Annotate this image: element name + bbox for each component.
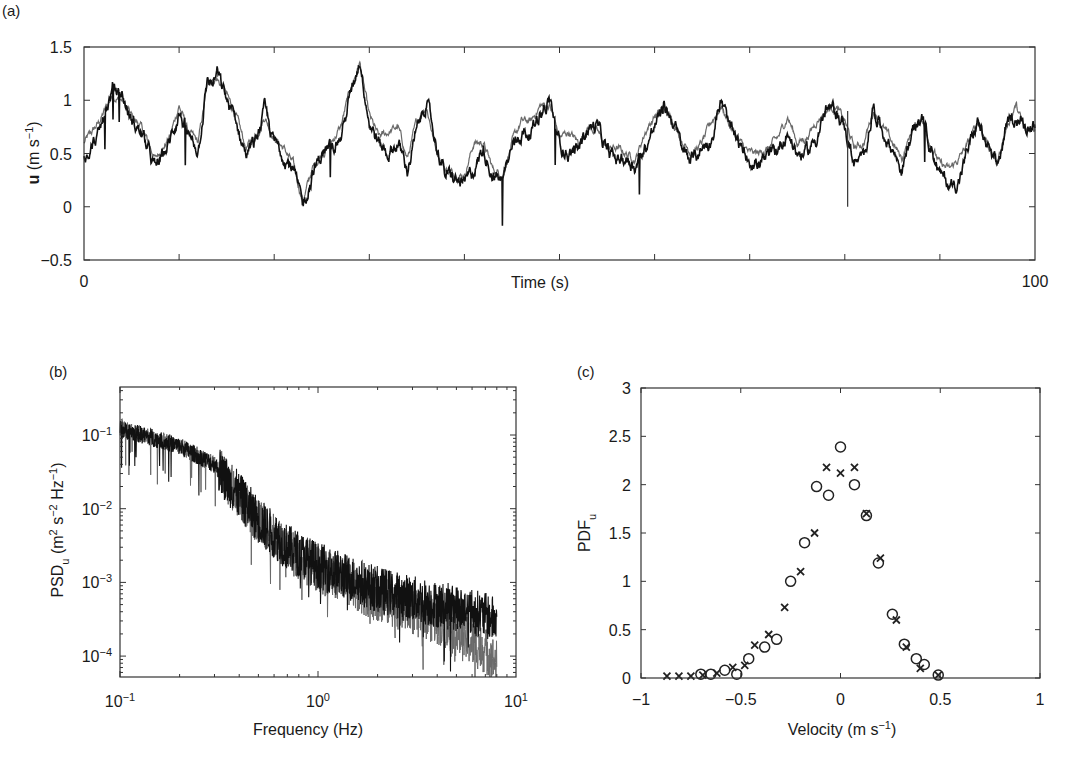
cross-marker [741,662,748,669]
x-tick-label: 0 [836,691,845,708]
circle-marker [824,490,834,500]
panel-label-a: (a) [2,2,20,19]
y-tick-label: 10−3 [82,572,112,591]
y-tick-label: −0.5 [40,252,72,269]
x-tick-label: 0 [80,273,89,290]
y-tick-label: 2.5 [609,428,631,445]
x-tick-label: 101 [504,691,528,710]
panel-b-psd: 10−110010110−410−310−210−1 Frequency (Hz… [47,387,528,738]
y-tick-label: 1 [622,573,631,590]
y-tick-label: 1 [63,92,72,109]
circle-marker [861,511,871,521]
panel-a-xlabel: Time (s) [511,274,569,291]
y-tick-label: 0 [622,670,631,687]
panel-a-ylabel: u (m s−1) [23,121,42,184]
x-tick-label: 10−1 [105,691,135,710]
cross-marker [851,464,858,471]
y-tick-label: 0.5 [50,146,72,163]
circle-marker [786,576,796,586]
panel-a-time-series: 0100−0.500.511.5 Time (s) u (m s−1) [23,39,1048,291]
x-tick-label: 0.5 [929,691,951,708]
panel-label-b: (b) [49,363,67,380]
cross-marker [823,464,830,471]
cross-marker [811,530,818,537]
circle-marker [887,609,897,619]
y-tick-label: 10−2 [82,499,112,518]
panel-a-series [84,62,1035,226]
circle-marker [772,634,782,644]
panel-c-frame [641,388,1040,678]
y-tick-label: 0 [63,199,72,216]
series-modelled-line [84,62,1035,203]
circle-marker [760,642,770,652]
x-tick-label: −1 [632,691,650,708]
y-tick-label: 0.5 [609,622,631,639]
panel-b-series [120,419,497,677]
cross-marker [751,642,758,649]
circle-marker [800,538,810,548]
cross-marker [917,665,924,672]
panel-c-ticks: −1−0.500.5100.511.522.53 [609,380,1045,708]
panel-b-xlabel: Frequency (Hz) [253,721,363,738]
y-tick-label: 1.5 [609,525,631,542]
circle-marker [836,442,846,452]
panel-c-series [663,442,943,680]
panel-a-frame [84,47,1035,260]
cross-marker [729,664,736,671]
x-tick-label: 100 [1022,273,1049,290]
circle-marker [720,665,730,675]
y-tick-label: 1.5 [50,39,72,56]
cross-marker [797,568,804,575]
y-tick-label: 10−4 [82,646,112,665]
y-tick-label: 2 [622,477,631,494]
circle-marker [744,654,754,664]
cross-marker [713,670,720,677]
panel-label-c: (c) [577,363,595,380]
y-tick-label: 3 [622,380,631,397]
panel-c-pdf: −1−0.500.5100.511.522.53 Velocity (m s−1… [576,380,1045,738]
panel-c-xlabel: Velocity (m s−1) [788,719,897,738]
cross-marker [765,631,772,638]
cross-marker [837,470,844,477]
panel-c-ylabel: PDFu [576,514,598,552]
panel-a-ticks: 0100−0.500.511.5 [40,39,1048,290]
figure-canvas: (a) (b) (c) 0100−0.500.511.5 Time (s) u … [0,0,1065,765]
y-tick-label: 10−1 [82,425,112,444]
circle-marker [849,480,859,490]
x-tick-label: 100 [306,691,330,710]
panel-b-ylabel: PSDu (m2 s−2 Hz−1) [47,462,71,597]
cross-marker [781,604,788,611]
x-tick-label: 1 [1036,691,1045,708]
circle-marker [812,482,822,492]
x-tick-label: −0.5 [725,691,757,708]
